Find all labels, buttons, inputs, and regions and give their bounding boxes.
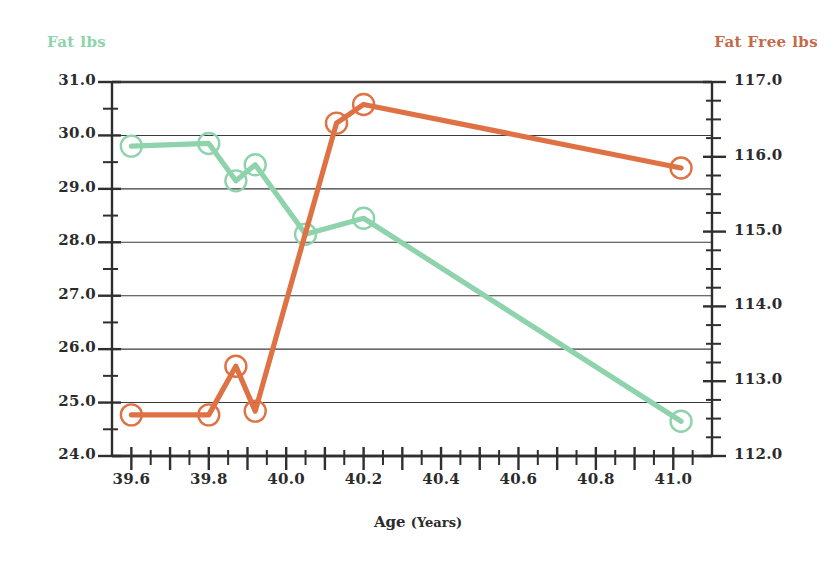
x-axis-tick-label: 39.8 [169, 470, 249, 488]
left-axis-tick-label: 25.0 [14, 392, 96, 410]
x-axis-tick-label: 40.2 [324, 470, 404, 488]
left-axis-tick-label: 28.0 [14, 231, 96, 249]
left-axis-tick-label: 24.0 [14, 445, 96, 463]
x-axis-tick-label: 41.0 [633, 470, 713, 488]
x-axis-tick-label: 40.0 [246, 470, 326, 488]
right-axis-tick-label: 112.0 [734, 445, 824, 463]
x-axis-title: Age (Years) [0, 513, 836, 531]
x-axis-title-text: Age [374, 513, 406, 531]
x-axis-tick-label: 40.6 [478, 470, 558, 488]
left-axis-tick-label: 29.0 [14, 178, 96, 196]
left-axis-tick-label: 26.0 [14, 338, 96, 356]
series-line-fat-lbs [131, 143, 681, 421]
right-axis-tick-label: 115.0 [734, 221, 824, 239]
plot-area [0, 0, 836, 577]
x-axis-title-unit: (Years) [411, 515, 462, 530]
left-axis-tick-label: 31.0 [14, 71, 96, 89]
right-axis-tick-label: 116.0 [734, 146, 824, 164]
right-axis-tick-label: 113.0 [734, 370, 824, 388]
chart-container: Fat lbs Fat Free lbs 31.030.029.028.027.… [0, 0, 836, 577]
right-axis-tick-label: 114.0 [734, 295, 824, 313]
x-axis-tick-label: 39.6 [91, 470, 171, 488]
left-axis-tick-label: 27.0 [14, 285, 96, 303]
left-axis-tick-label: 30.0 [14, 124, 96, 142]
x-axis-tick-label: 40.8 [556, 470, 636, 488]
right-axis-tick-label: 117.0 [734, 71, 824, 89]
x-axis-tick-label: 40.4 [401, 470, 481, 488]
